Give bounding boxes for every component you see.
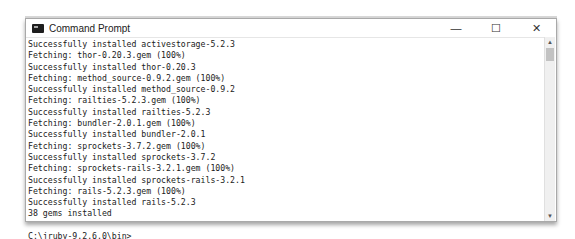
console-line: Fetching: railties-5.2.3.gem (100%) xyxy=(28,95,544,106)
console-line: Successfully installed railties-5.2.3 xyxy=(28,107,544,118)
vertical-scrollbar[interactable]: ▲ ▼ xyxy=(544,37,555,221)
scroll-up-arrow-icon[interactable]: ▲ xyxy=(545,37,555,47)
console-line: Successfully installed thor-0.20.3 xyxy=(28,62,544,73)
window-controls: — ☐ ✕ xyxy=(436,19,556,37)
command-prompt-line[interactable]: C:\jruby-9.2.6.0\bin> xyxy=(28,231,544,239)
title-bar[interactable]: Command Prompt — ☐ ✕ xyxy=(26,19,556,37)
console-line: Fetching: bundler-2.0.1.gem (100%) xyxy=(28,118,544,129)
minimize-button[interactable]: — xyxy=(436,19,476,37)
console-line: Successfully installed rails-5.2.3 xyxy=(28,197,544,208)
console-line: Fetching: sprockets-3.7.2.gem (100%) xyxy=(28,141,544,152)
console-line xyxy=(28,220,544,231)
scroll-down-arrow-icon[interactable]: ▼ xyxy=(545,211,555,221)
console-line: Fetching: thor-0.20.3.gem (100%) xyxy=(28,50,544,61)
console-line: Fetching: rails-5.2.3.gem (100%) xyxy=(28,186,544,197)
console-line: Successfully installed method_source-0.9… xyxy=(28,84,544,95)
console-line: Fetching: sprockets-rails-3.2.1.gem (100… xyxy=(28,163,544,174)
console-line: Successfully installed sprockets-rails-3… xyxy=(28,175,544,186)
console-line: Successfully installed activestorage-5.2… xyxy=(28,39,544,50)
close-button[interactable]: ✕ xyxy=(516,19,556,37)
command-prompt-window[interactable]: Command Prompt — ☐ ✕ Successfully instal… xyxy=(25,18,557,222)
console-output[interactable]: Successfully installed activestorage-5.2… xyxy=(26,37,544,221)
maximize-button[interactable]: ☐ xyxy=(476,19,516,37)
console-line: Fetching: method_source-0.9.2.gem (100%) xyxy=(28,73,544,84)
console-line: 38 gems installed xyxy=(28,208,544,219)
console-line: Successfully installed bundler-2.0.1 xyxy=(28,129,544,140)
console-line: Successfully installed sprockets-3.7.2 xyxy=(28,152,544,163)
scrollbar-thumb[interactable] xyxy=(546,48,554,61)
window-title: Command Prompt xyxy=(49,23,130,34)
cmd-app-icon xyxy=(32,24,44,33)
